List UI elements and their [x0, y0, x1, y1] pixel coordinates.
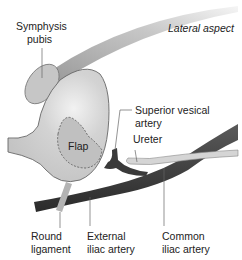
label-line: pubis: [16, 33, 52, 45]
diagram-canvas: Lateral aspect Symphysis pubis Superior …: [0, 0, 242, 260]
label-line: Symphysis: [16, 20, 67, 32]
label-line: iliac artery: [162, 243, 210, 255]
label-line: iliac artery: [87, 243, 135, 255]
label-line: ligament: [31, 243, 71, 255]
label-line: External: [87, 230, 126, 242]
view-label: Lateral aspect: [168, 22, 234, 35]
label-line: Common: [162, 230, 205, 242]
label-superior-vesical-artery: Superior vesical artery: [135, 104, 210, 130]
label-ureter: Ureter: [133, 133, 162, 146]
label-line: artery: [135, 117, 162, 129]
label-symphysis-pubis: Symphysis pubis: [16, 20, 67, 46]
label-round-ligament: Round ligament: [31, 230, 71, 256]
label-flap: Flap: [68, 140, 88, 152]
label-line: Superior vesical: [135, 104, 210, 116]
label-common-iliac-artery: Common iliac artery: [162, 230, 210, 256]
label-line: Round: [31, 230, 62, 242]
label-external-iliac-artery: External iliac artery: [87, 230, 135, 256]
